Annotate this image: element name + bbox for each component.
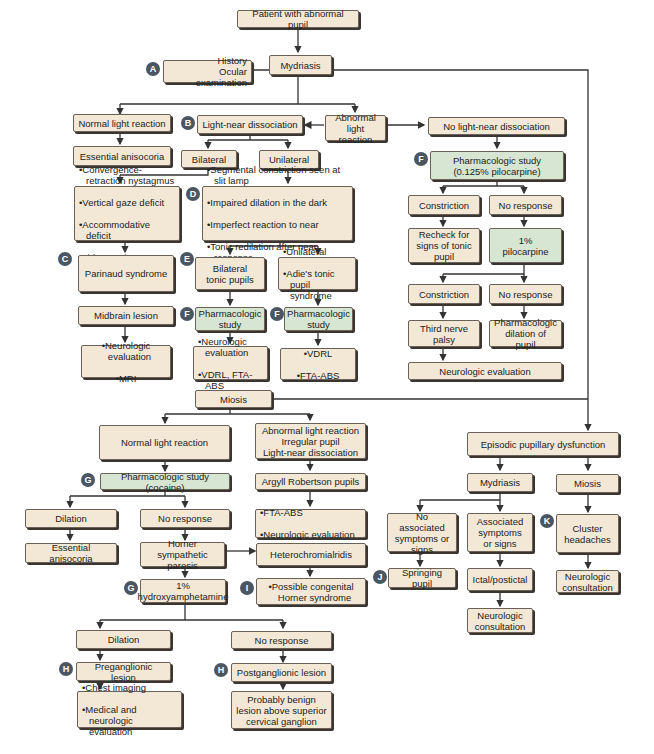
- node-history: History Ocular examination: [163, 60, 252, 83]
- node-cluster-headaches: Cluster headaches: [556, 514, 619, 553]
- eval-item: Neurologic evaluation: [86, 340, 166, 362]
- node-pharm-study-adie: Pharmacologic study: [284, 307, 353, 331]
- badge-j: J: [373, 570, 387, 584]
- node-no-response-2: No response: [489, 284, 562, 304]
- node-adie: Unilateral Adie's tonic pupil syndrome: [278, 257, 356, 290]
- badge-f1: F: [180, 307, 194, 321]
- midbrain-eval-list: Neurologic evaluation MRI: [86, 329, 166, 395]
- node-patient: Patient with abnormal pupil: [237, 10, 359, 28]
- node-preganglionic-eval: Chest imaging Medical and neurologic eva…: [77, 691, 182, 728]
- sign-item: Impaired dilation in the dark: [207, 197, 348, 208]
- node-congenital-horner: Possible congenital Horner syndrome: [256, 578, 366, 605]
- badge-f2: F: [270, 307, 284, 321]
- node-light-near-dissociation: Light-near dissociation: [197, 115, 303, 134]
- eval-item: FTA-ABS: [297, 370, 340, 381]
- adie-item: Unilateral: [283, 246, 351, 257]
- sign-item: Segmental constriction seen at slit lamp: [207, 164, 348, 186]
- node-neuro-consult-ictal: Neurologic consultation: [467, 608, 533, 633]
- node-no-response-1: No response: [489, 195, 562, 215]
- node-miosis-normal-light: Normal light reaction: [99, 425, 230, 460]
- badge-d: D: [186, 187, 200, 201]
- node-episodic-miosis: Miosis: [556, 474, 619, 493]
- node-springing-pupil: Springing pupil: [388, 568, 456, 588]
- badge-b: B: [181, 116, 195, 130]
- node-neuro-eval: Neurologic evaluation: [408, 362, 562, 380]
- node-no-associated: No associated symptoms or signs: [387, 513, 457, 552]
- node-third-nerve-palsy: Third nerve palsy: [408, 320, 480, 347]
- node-normal-light: Normal light reaction: [73, 114, 171, 132]
- node-cocaine-study: Pharmacologic study (cocaine): [100, 473, 230, 490]
- node-miosis-abnormal: Abnormal light reaction Irregular pupil …: [255, 423, 366, 459]
- node-bilateral-eval: Neurologic evaluation VDRL, FTA-ABS: [193, 346, 268, 380]
- badge-e: E: [180, 252, 194, 266]
- node-horner-paresis: Horner sympathetic paresis: [140, 542, 225, 567]
- node-neuro-consult-cluster: Neurologic consultation: [556, 570, 619, 593]
- node-argyll-robertson: Argyll Robertson pupils: [255, 473, 366, 490]
- badge-h1: H: [59, 662, 73, 676]
- node-postganglionic-eval: Probably benign lesion above superior ce…: [231, 691, 332, 729]
- sign-item: Accommodative deficit: [79, 219, 175, 241]
- node-pilocarpine-study: Pharmacologic study (0.125% pilocarpine): [430, 151, 564, 180]
- node-parinaud-signs: Convergence-retraction nystagmus Vertica…: [74, 186, 180, 241]
- badge-g1: G: [81, 473, 95, 487]
- badge-i: I: [240, 581, 254, 595]
- node-essential-anisocoria-2: Essential anisocoria: [25, 543, 117, 563]
- badge-k: K: [540, 514, 554, 528]
- node-parinaud-syndrome: Parinaud syndrome: [78, 255, 174, 292]
- pupil-flowchart: Patient with abnormal pupil A History Oc…: [0, 0, 654, 754]
- node-associated: Associated symptoms or signs: [467, 513, 533, 552]
- node-recheck-tonic: Recheck for signs of tonic pupil: [408, 228, 480, 263]
- node-no-light-near: No light-near dissociation: [428, 117, 565, 135]
- node-miosis: Miosis: [195, 390, 272, 408]
- node-constriction-2: Constriction: [408, 284, 480, 304]
- eval-item: FTA-ABS: [260, 507, 355, 518]
- badge-c: C: [58, 252, 72, 266]
- node-no-response-3: No response: [140, 509, 230, 528]
- node-abnormal-light: Abnormal light reaction: [325, 115, 386, 141]
- node-dilation-1: Dilation: [25, 509, 117, 528]
- sign-item: Vertical gaze deficit: [79, 197, 175, 208]
- node-tonic-signs: Segmental constriction seen at slit lamp…: [202, 186, 353, 241]
- adie-eval-list: VDRL FTA-ABS: [297, 337, 340, 392]
- node-heterochromia: Heterochromialridis: [256, 543, 366, 566]
- node-midbrain-lesion: Midbrain lesion: [78, 306, 174, 325]
- pre-eval-list: Chest imaging Medical and neurologic eva…: [82, 671, 177, 748]
- sign-item: Imperfect reaction to near: [207, 219, 348, 230]
- badge-f3: F: [414, 152, 428, 166]
- badge-a: A: [146, 62, 160, 76]
- eval-item: Neurologic evaluation: [260, 529, 355, 540]
- eval-item: VDRL: [297, 348, 340, 359]
- congenital-list: Possible congenital Horner syndrome: [261, 570, 361, 614]
- node-episodic-dysfunction: Episodic pupillary dysfunction: [467, 432, 619, 456]
- node-postganglionic: Postganglionic lesion: [231, 663, 332, 682]
- node-hydroxyamphetamine: 1% hydroxyamphetamine: [140, 579, 226, 603]
- node-pilocarpine-1pct: 1% pilocarpine: [489, 228, 562, 263]
- node-mydriasis: Mydriasis: [269, 55, 332, 75]
- node-bilateral-tonic: Bilateral tonic pupils: [195, 257, 265, 290]
- node-constriction-1: Constriction: [408, 195, 480, 215]
- node-no-response-4: No response: [231, 631, 332, 649]
- node-dilation-2: Dilation: [76, 630, 171, 649]
- adie-item: Adie's tonic pupil syndrome: [283, 268, 351, 301]
- sign-item: Convergence-retraction nystagmus: [79, 164, 175, 186]
- node-ictal-postictal: Ictal/postictal: [467, 568, 533, 591]
- eval-item: Chest imaging: [82, 682, 177, 693]
- node-adie-eval: VDRL FTA-ABS: [280, 348, 356, 380]
- badge-g2: G: [124, 581, 138, 595]
- eval-item: MRI: [86, 373, 166, 384]
- congenital-item: Possible congenital Horner syndrome: [261, 581, 361, 603]
- node-pharm-dilation: Pharmacologic dilation of pupil: [489, 320, 562, 347]
- node-argyll-eval: FTA-ABS Neurologic evaluation: [255, 509, 366, 538]
- adie-list: Unilateral Adie's tonic pupil syndrome: [283, 235, 351, 312]
- eval-item: Neurologic evaluation: [198, 336, 263, 358]
- eval-item: VDRL, FTA-ABS: [198, 369, 263, 391]
- eval-item: Medical and neurologic evaluation: [82, 704, 177, 737]
- node-midbrain-eval: Neurologic evaluation MRI: [81, 345, 171, 378]
- node-episodic-mydriasis: Mydriasis: [467, 473, 533, 492]
- badge-h2: H: [214, 663, 228, 677]
